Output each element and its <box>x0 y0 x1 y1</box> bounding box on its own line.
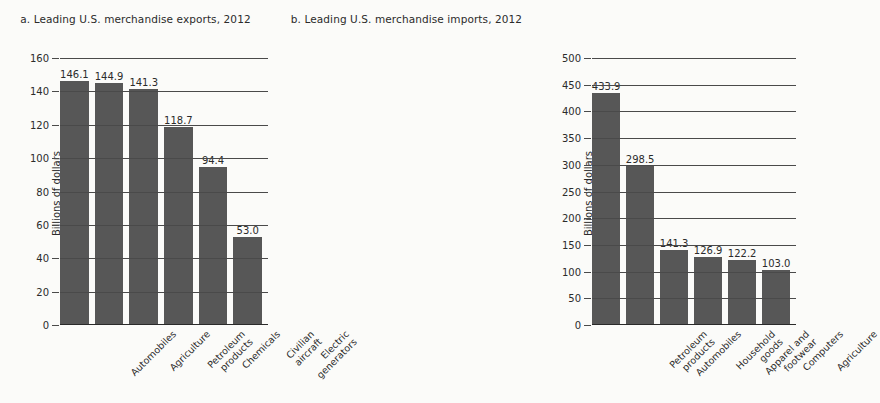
y-tick-mark <box>584 138 591 139</box>
y-tick-mark <box>584 111 591 112</box>
y-tick-mark <box>52 192 59 193</box>
gridline <box>592 165 796 166</box>
chart-b-title: b. Leading U.S. merchandise imports, 201… <box>271 13 542 25</box>
y-tick-mark <box>52 292 59 293</box>
gridline <box>60 258 268 259</box>
y-tick-mark <box>584 218 591 219</box>
gridline <box>60 225 268 226</box>
y-tick-mark <box>52 158 59 159</box>
y-tick-mark <box>584 325 591 326</box>
bar[interactable] <box>694 257 722 325</box>
y-tick-label: 300 <box>562 159 581 170</box>
bar[interactable] <box>233 237 262 325</box>
gridline <box>592 138 796 139</box>
y-tick-label: 120 <box>30 119 49 130</box>
bar[interactable] <box>95 83 124 325</box>
y-tick-mark <box>52 91 59 92</box>
y-tick-mark <box>584 85 591 86</box>
chart-panel-a: a. Leading U.S. merchandise exports, 201… <box>0 0 271 403</box>
bar-value-label: 141.3 <box>660 238 689 249</box>
y-tick-mark <box>52 58 59 59</box>
gridline <box>60 158 268 159</box>
bar-value-label: 144.9 <box>95 71 124 82</box>
gridline <box>592 192 796 193</box>
bar-value-label: 126.9 <box>694 245 723 256</box>
gridline <box>592 245 796 246</box>
gridline <box>60 292 268 293</box>
y-tick-label: 80 <box>36 186 49 197</box>
gridline <box>60 125 268 126</box>
y-tick-label: 500 <box>562 53 581 64</box>
gridline <box>60 192 268 193</box>
y-tick-label: 100 <box>562 266 581 277</box>
y-tick-label: 400 <box>562 106 581 117</box>
y-tick-mark <box>52 258 59 259</box>
bar-value-label: 94.4 <box>202 155 224 166</box>
bar[interactable] <box>592 93 620 325</box>
bar-value-label: 298.5 <box>626 154 655 165</box>
bar-value-label: 122.2 <box>728 248 757 259</box>
chart-a-plot-area: Billions of dollars 146.1144.9141.3118.7… <box>60 58 268 325</box>
gridline <box>592 85 796 86</box>
chart-a-x-labels: AutomobilesAgriculturePetroleum products… <box>60 325 268 403</box>
y-tick-label: 200 <box>562 213 581 224</box>
y-tick-mark <box>52 125 59 126</box>
gridline <box>592 218 796 219</box>
y-tick-mark <box>52 325 59 326</box>
y-tick-label: 40 <box>36 253 49 264</box>
gridline <box>60 58 268 59</box>
y-tick-label: 450 <box>562 79 581 90</box>
y-tick-mark <box>584 192 591 193</box>
gridline <box>592 58 796 59</box>
y-tick-mark <box>584 245 591 246</box>
x-category-label: Agriculture <box>809 329 880 400</box>
bar-value-label: 141.3 <box>129 77 158 88</box>
gridline <box>60 91 268 92</box>
y-tick-label: 100 <box>30 153 49 164</box>
bar-value-label: 103.0 <box>762 258 791 269</box>
y-tick-mark <box>584 165 591 166</box>
gridline <box>592 298 796 299</box>
y-tick-label: 20 <box>36 286 49 297</box>
gridline <box>592 272 796 273</box>
chart-panel-b: b. Leading U.S. merchandise imports, 201… <box>271 0 542 403</box>
y-tick-label: 160 <box>30 53 49 64</box>
bar-value-label: 53.0 <box>237 225 259 236</box>
y-tick-mark <box>584 272 591 273</box>
bar[interactable] <box>164 127 193 325</box>
bar[interactable] <box>660 250 688 325</box>
y-tick-label: 140 <box>30 86 49 97</box>
bar-value-label: 433.9 <box>592 81 621 92</box>
y-tick-label: 150 <box>562 239 581 250</box>
bar[interactable] <box>728 260 756 325</box>
y-tick-label: 60 <box>36 219 49 230</box>
y-tick-label: 350 <box>562 133 581 144</box>
chart-a-title: a. Leading U.S. merchandise exports, 201… <box>0 13 271 25</box>
gridline <box>592 111 796 112</box>
y-tick-label: 0 <box>43 320 49 331</box>
chart-b-x-labels: Petroleum productsAutomobilesHousehold g… <box>592 325 796 403</box>
y-tick-mark <box>52 225 59 226</box>
y-tick-label: 50 <box>568 293 581 304</box>
y-tick-label: 0 <box>575 320 581 331</box>
bar[interactable] <box>60 81 89 325</box>
bar-value-label: 146.1 <box>60 69 89 80</box>
y-tick-label: 250 <box>562 186 581 197</box>
y-tick-mark <box>584 58 591 59</box>
chart-b-plot-area: Billions of dollars 433.9298.5141.3126.9… <box>592 58 796 325</box>
y-tick-mark <box>584 298 591 299</box>
